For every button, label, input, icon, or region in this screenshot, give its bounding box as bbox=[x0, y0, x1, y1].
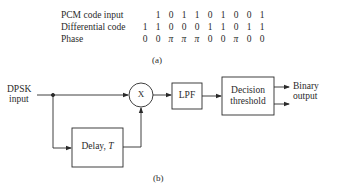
lpf-label: LPF bbox=[172, 90, 202, 101]
delay-to-multiplier bbox=[123, 108, 141, 147]
decision-label-line1: Decision bbox=[222, 85, 274, 96]
delay-label-text: Delay, bbox=[81, 141, 108, 151]
decision-label-line2: threshold bbox=[222, 96, 274, 107]
multiplier-label: X bbox=[131, 89, 151, 100]
delay-variable: T bbox=[108, 141, 113, 151]
dpsk-input-label-line2: input bbox=[9, 94, 39, 105]
caption-b: (b) bbox=[153, 173, 164, 183]
branch-to-delay bbox=[53, 95, 71, 148]
binary-output-label-line2: output bbox=[293, 91, 317, 102]
delay-label: Delay, T bbox=[72, 141, 123, 152]
dpsk-receiver-diagram bbox=[0, 0, 337, 193]
